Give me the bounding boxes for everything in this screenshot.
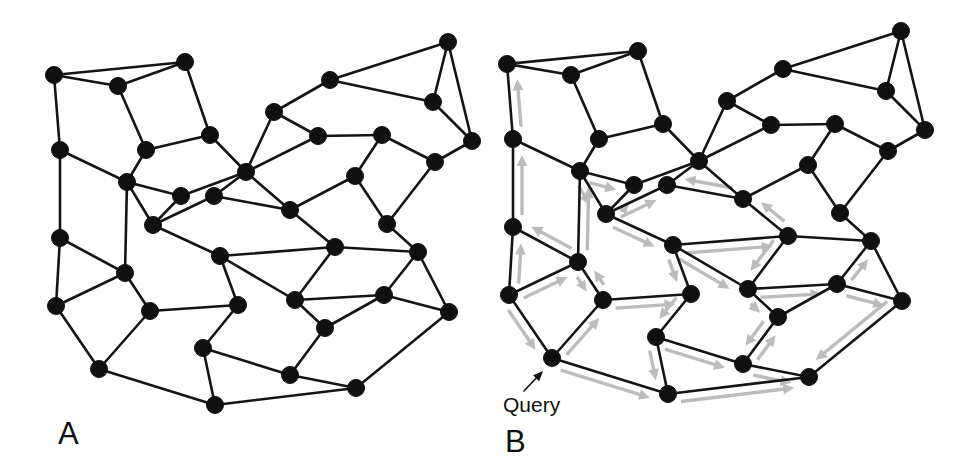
- graph-node[interactable]: [440, 34, 457, 51]
- graph-node[interactable]: [230, 297, 247, 314]
- graph-node[interactable]: [763, 117, 780, 134]
- graph-node[interactable]: [282, 367, 299, 384]
- graph-node[interactable]: [266, 104, 283, 121]
- graph-node[interactable]: [917, 122, 934, 139]
- graph-node[interactable]: [195, 340, 212, 357]
- flow-arrow-head-24: [783, 384, 795, 395]
- graph-edge: [384, 295, 449, 312]
- graph-node[interactable]: [829, 276, 846, 293]
- graph-node[interactable]: [683, 286, 700, 303]
- graph-node[interactable]: [691, 153, 708, 170]
- graph-node[interactable]: [894, 293, 911, 310]
- graph-node[interactable]: [770, 309, 787, 326]
- graph-node[interactable]: [46, 67, 63, 84]
- graph-node[interactable]: [310, 128, 327, 145]
- graph-node[interactable]: [441, 304, 458, 321]
- graph-node[interactable]: [206, 188, 223, 205]
- graph-node[interactable]: [719, 93, 736, 110]
- graph-node[interactable]: [427, 154, 444, 171]
- graph-node[interactable]: [177, 54, 194, 71]
- graph-node[interactable]: [117, 265, 134, 282]
- figure-root: A B Query: [0, 0, 976, 475]
- graph-node[interactable]: [595, 292, 612, 309]
- graph-node[interactable]: [238, 164, 255, 181]
- graph-node[interactable]: [570, 254, 587, 271]
- graph-node[interactable]: [347, 168, 364, 185]
- flow-arrow-shaft-13: [616, 305, 668, 309]
- graph-node[interactable]: [544, 350, 561, 367]
- graph-node[interactable]: [212, 248, 229, 265]
- graph-node[interactable]: [287, 292, 304, 309]
- graph-node[interactable]: [202, 127, 219, 144]
- graph-node[interactable]: [142, 303, 159, 320]
- graph-node[interactable]: [52, 230, 69, 247]
- graph-edge: [837, 284, 902, 301]
- graph-node[interactable]: [505, 219, 522, 236]
- graph-edge: [809, 301, 902, 377]
- flow-arrow-shaft-30: [822, 302, 887, 355]
- flow-arrow-head-33: [684, 176, 696, 187]
- graph-node[interactable]: [655, 116, 672, 133]
- graph-node[interactable]: [780, 228, 797, 245]
- graph-node[interactable]: [740, 281, 757, 298]
- graph-node[interactable]: [173, 188, 190, 205]
- graph-node[interactable]: [665, 237, 682, 254]
- graph-node[interactable]: [598, 206, 615, 223]
- graph-node[interactable]: [659, 177, 676, 194]
- graph-node[interactable]: [832, 205, 849, 222]
- graph-node[interactable]: [145, 217, 162, 234]
- flow-arrow-shaft-18: [686, 247, 765, 253]
- graph-node[interactable]: [735, 191, 752, 208]
- graph-node[interactable]: [138, 142, 155, 159]
- graph-node[interactable]: [648, 329, 665, 346]
- graph-node[interactable]: [800, 157, 817, 174]
- graph-node[interactable]: [735, 356, 752, 373]
- graph-node[interactable]: [563, 67, 580, 84]
- graph-node[interactable]: [827, 116, 844, 133]
- graph-node[interactable]: [207, 397, 224, 414]
- graph-node[interactable]: [775, 61, 792, 78]
- graph-node[interactable]: [863, 233, 880, 250]
- graph-node[interactable]: [880, 143, 897, 160]
- graph-node[interactable]: [499, 56, 516, 73]
- graph-node[interactable]: [317, 320, 334, 337]
- graph-node[interactable]: [425, 94, 442, 111]
- graph-node[interactable]: [374, 127, 391, 144]
- graph-node[interactable]: [464, 133, 481, 150]
- graph-node[interactable]: [505, 131, 522, 148]
- graph-edge: [571, 75, 599, 139]
- graph-node[interactable]: [282, 202, 299, 219]
- graph-node[interactable]: [626, 177, 643, 194]
- graph-edge: [727, 69, 783, 101]
- graph-node[interactable]: [110, 78, 127, 95]
- graph-node[interactable]: [630, 43, 647, 60]
- graph-node[interactable]: [348, 380, 365, 397]
- graph-node[interactable]: [591, 131, 608, 148]
- graph-node[interactable]: [660, 386, 677, 403]
- graph-node[interactable]: [801, 369, 818, 386]
- flow-arrow-head-2: [513, 79, 524, 90]
- graph-node[interactable]: [52, 142, 69, 159]
- graph-node[interactable]: [379, 216, 396, 233]
- graph-node[interactable]: [119, 174, 136, 191]
- flow-arrow-shaft-31: [750, 321, 763, 339]
- graph-node[interactable]: [878, 83, 895, 100]
- graph-node[interactable]: [410, 244, 427, 261]
- graph-node[interactable]: [376, 287, 393, 304]
- graph-edge: [274, 80, 330, 112]
- graph-node[interactable]: [893, 23, 910, 40]
- graph-edge: [99, 369, 215, 405]
- graph-edge: [215, 388, 356, 405]
- flow-arrow-shaft-32: [767, 207, 784, 221]
- graph-node[interactable]: [572, 163, 589, 180]
- graph-node[interactable]: [501, 287, 518, 304]
- graph-node[interactable]: [48, 298, 65, 315]
- graph-edge: [214, 196, 290, 210]
- graph-edge: [901, 31, 925, 130]
- graph-edge: [203, 348, 290, 375]
- graph-edge: [330, 80, 433, 102]
- graph-node[interactable]: [327, 239, 344, 256]
- graph-node[interactable]: [322, 72, 339, 89]
- edge-layer: [54, 42, 472, 405]
- graph-node[interactable]: [91, 361, 108, 378]
